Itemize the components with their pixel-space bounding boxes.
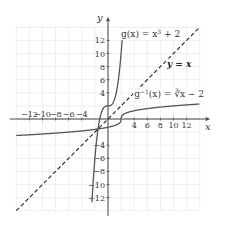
y-tick-label: 8 [100,63,105,72]
x-tick-label: 8 [158,121,163,130]
x-tick-label: 6 [145,121,150,130]
x-tick-label: −4 [76,110,88,119]
annotations: g(x) = x3 + 2y = xg−1(x) = ∛x − 2 [120,28,211,101]
curve-g [92,33,123,202]
x-axis-label: x [205,121,211,132]
y-tick-label: −4 [93,141,105,150]
x-tick-label: 4 [132,121,137,130]
annotation-y-equals-x: y = x [166,59,192,69]
x-tick-label: −8 [50,110,62,119]
x-tick-label: −10 [34,110,51,119]
x-tick-label: 12 [182,121,192,130]
y-tick-label: 6 [100,76,105,85]
y-tick-label: 10 [95,50,105,59]
x-tick-label: −6 [63,110,75,119]
chart: −12−10−8−6−446810121210864−4−6−8−10−12 g… [0,0,227,227]
annotation-g: g(x) = x3 + 2 [121,28,180,40]
y-tick-label: −12 [88,194,105,203]
y-tick-label: 12 [95,36,105,45]
y-tick-label: −8 [93,167,105,176]
y-tick-label: −10 [88,181,105,190]
y-tick-label: 4 [100,89,105,98]
y-axis-label: y [96,12,103,23]
x-tick-label: 10 [168,121,178,130]
